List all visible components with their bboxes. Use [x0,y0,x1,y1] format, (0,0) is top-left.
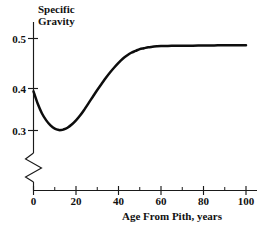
chart-plot-area: 0.5 0.4 0.3 0 20 40 60 80 100 Specific G… [0,0,275,231]
x-axis-title: Age From Pith, years [122,210,223,222]
data-curve-specific-gravity [34,45,247,130]
y-tick-label-0.4: 0.4 [12,83,26,95]
x-tick-label-0: 0 [31,195,37,207]
specific-gravity-chart-figure: 0.5 0.4 0.3 0 20 40 60 80 100 Specific G… [0,0,275,231]
y-tick-label-0.3: 0.3 [12,125,26,137]
x-tick-label-60: 60 [156,195,168,207]
x-tick-label-100: 100 [238,195,255,207]
y-tick-label-0.5: 0.5 [12,33,26,45]
chart-title-line-2: Gravity [38,15,75,27]
x-tick-label-20: 20 [71,195,83,207]
y-axis-break-zigzag [26,153,42,182]
x-tick-label-80: 80 [198,195,210,207]
chart-title-line-1: Specific [38,3,75,15]
x-tick-label-40: 40 [113,195,125,207]
